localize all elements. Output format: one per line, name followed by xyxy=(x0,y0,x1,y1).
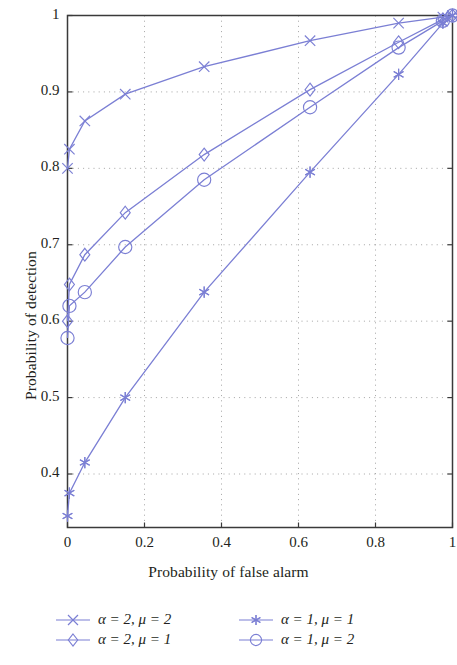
legend-label: α = 2, μ = 2 xyxy=(98,611,171,628)
series-1 xyxy=(63,9,457,327)
x-tick-label: 0.8 xyxy=(351,534,401,551)
x-tick-label: 0.2 xyxy=(120,534,170,551)
x-tick-label: 1 xyxy=(428,534,457,551)
legend-marker-diamond-icon xyxy=(55,632,91,648)
legend-label: α = 1, μ = 2 xyxy=(281,631,354,648)
y-tick-label: 0.6 xyxy=(12,311,60,328)
legend-marker-star-icon xyxy=(238,612,274,628)
y-tick-label: 0.8 xyxy=(12,158,60,175)
x-tick-label: 0 xyxy=(43,534,93,551)
legend-marker-circle-icon xyxy=(238,632,274,648)
series-3 xyxy=(61,9,457,345)
legend-marker-cross-icon xyxy=(55,612,91,628)
legend-entry: α = 1, μ = 1 xyxy=(238,611,415,628)
chart-legend: α = 2, μ = 2α = 1, μ = 1α = 2, μ = 1α = … xyxy=(55,611,415,648)
y-tick-label: 0.7 xyxy=(12,235,60,252)
series-0 xyxy=(62,10,457,173)
legend-label: α = 2, μ = 1 xyxy=(98,631,171,648)
y-tick-label: 0.4 xyxy=(12,464,60,481)
legend-entry: α = 1, μ = 2 xyxy=(238,631,415,648)
y-tick-label: 0.9 xyxy=(12,82,60,99)
x-tick-label: 0.4 xyxy=(197,534,247,551)
x-axis-title: Probability of false alarm xyxy=(0,563,457,581)
legend-label: α = 1, μ = 1 xyxy=(281,611,354,628)
legend-entry: α = 2, μ = 1 xyxy=(55,631,232,648)
legend-entry: α = 2, μ = 2 xyxy=(55,611,232,628)
y-tick-label: 0.5 xyxy=(12,388,60,405)
roc-chart-figure: Probability of false alarm Probability o… xyxy=(0,0,457,665)
gridlines xyxy=(68,16,453,528)
y-tick-label: 1 xyxy=(12,6,60,23)
series-2 xyxy=(63,10,457,522)
x-tick-label: 0.6 xyxy=(274,534,324,551)
